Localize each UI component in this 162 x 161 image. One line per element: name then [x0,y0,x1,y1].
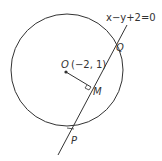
point-p-tick [67,128,74,129]
circle [11,14,123,126]
center-coords-label: (−2, 1) [71,59,106,70]
point-q-label: Q [116,42,124,53]
point-p-label: P [71,135,78,146]
segment-om [66,72,91,87]
center-label: O [61,59,69,70]
equation-label: x−y+2=0 [106,12,156,23]
point-m-label: M [93,86,102,97]
center-point [64,70,67,73]
circle-chord-diagram: x−y+2=0 O (−2, 1) Q M P [0,0,162,161]
